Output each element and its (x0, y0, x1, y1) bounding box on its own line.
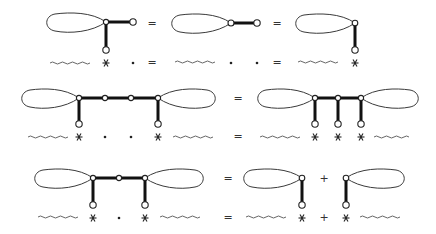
wavy-line (173, 136, 213, 138)
star-vertex (142, 215, 149, 222)
wavy-line (38, 216, 78, 218)
endpoint-node (352, 47, 358, 53)
star-vertex (335, 134, 342, 141)
dot-vertex (132, 62, 135, 65)
star-vertex (76, 134, 83, 141)
wavy-line (28, 136, 68, 138)
vertex-node (352, 20, 358, 26)
wavy-line (298, 61, 338, 63)
graph-loop-vertical-leg (296, 14, 358, 53)
endpoint-node (254, 20, 260, 26)
vertex-node (228, 20, 234, 26)
equals-sign: = (272, 56, 281, 69)
equals-sign: = (147, 17, 156, 30)
dot-vertex (104, 136, 107, 139)
graph-double-loop-3-vertices (35, 169, 204, 208)
row-2-symbols: = (28, 130, 409, 143)
equals-sign: = (223, 172, 232, 185)
star-vertex (155, 134, 162, 141)
graph-loop-t-junction (47, 13, 136, 53)
equals-sign: = (233, 92, 242, 105)
wavy-line (160, 216, 200, 218)
graph-double-loop-3-legs (258, 89, 419, 127)
plus-sign: + (319, 172, 328, 185)
row-1-symbols: = = (50, 56, 359, 69)
diagram-canvas: = = = = (0, 0, 436, 234)
row-3-graphs: = + (35, 169, 405, 208)
graph-left-loop-leg (244, 169, 305, 208)
wavy-line (50, 62, 90, 64)
equals-sign: = (223, 211, 232, 224)
row-1-graphs: = = (47, 13, 358, 53)
wavy-line (360, 216, 400, 218)
equals-sign: = (147, 56, 156, 69)
vertex-node (103, 19, 108, 24)
star-vertex (103, 60, 110, 67)
graph-right-loop-leg (343, 169, 404, 208)
star-vertex (352, 60, 359, 67)
star-vertex (299, 215, 306, 222)
wavy-line (374, 136, 409, 138)
row-3-symbols: = + (38, 211, 400, 224)
wavy-line (260, 136, 300, 138)
equals-sign: = (272, 17, 281, 30)
star-vertex (312, 134, 319, 141)
star-vertex (90, 215, 97, 222)
dot-vertex (256, 62, 259, 65)
endpoint-node (130, 19, 136, 25)
endpoint-node (103, 47, 109, 53)
dot-vertex (118, 217, 121, 220)
wavy-line (246, 216, 286, 218)
graph-loop-horizontal-leg (172, 14, 260, 33)
graph-double-loop-4-vertices (22, 89, 216, 127)
dot-vertex (130, 136, 133, 139)
row-2-graphs: = (22, 89, 419, 127)
dot-vertex (230, 62, 233, 65)
plus-sign: + (319, 211, 328, 224)
equals-sign: = (233, 130, 242, 143)
star-vertex (358, 134, 365, 141)
star-vertex (343, 215, 350, 222)
wavy-line (175, 61, 215, 63)
